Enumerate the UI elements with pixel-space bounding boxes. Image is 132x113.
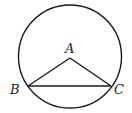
label-b: B: [9, 82, 20, 97]
circle: [19, 5, 122, 108]
geometry-diagram: A B C: [0, 0, 132, 113]
label-a: A: [64, 41, 74, 56]
segment-ab: [28, 58, 70, 86]
segment-ac: [70, 58, 111, 86]
label-c: C: [114, 82, 124, 97]
